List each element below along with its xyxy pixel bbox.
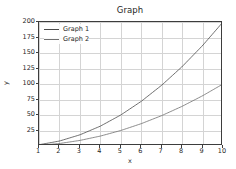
x-axis-label: x <box>38 157 222 165</box>
y-axis-label: y <box>2 68 10 98</box>
y-tick-label: 200 <box>4 18 38 25</box>
chart-figure: Graph 255075100125150175200 12345678910 … <box>0 0 236 169</box>
x-tick-label: 4 <box>89 147 109 155</box>
y-tick-label: 150 <box>4 49 38 56</box>
legend-line-swatch <box>44 39 59 40</box>
chart-legend: Graph 1Graph 2 <box>44 24 89 44</box>
x-tick-label: 1 <box>28 147 48 155</box>
legend-item[interactable]: Graph 2 <box>44 34 89 44</box>
y-tick-label: 175 <box>4 33 38 40</box>
x-tick-label: 9 <box>192 147 212 155</box>
chart-title: Graph <box>38 5 222 15</box>
x-tick-label: 2 <box>48 147 68 155</box>
x-axis-tick-labels: 12345678910 <box>38 147 222 157</box>
legend-item[interactable]: Graph 1 <box>44 24 89 34</box>
x-tick-label: 6 <box>130 147 150 155</box>
x-tick-label: 8 <box>171 147 191 155</box>
legend-label: Graph 1 <box>63 25 89 33</box>
x-tick-label: 10 <box>212 147 232 155</box>
legend-line-swatch <box>44 29 59 30</box>
y-tick-label: 50 <box>4 111 38 118</box>
x-tick-label: 3 <box>69 147 89 155</box>
series-line-2 <box>39 84 222 145</box>
x-tick-label: 7 <box>151 147 171 155</box>
x-tick-label: 5 <box>110 147 130 155</box>
legend-label: Graph 2 <box>63 35 89 43</box>
y-tick-label: 25 <box>4 126 38 133</box>
